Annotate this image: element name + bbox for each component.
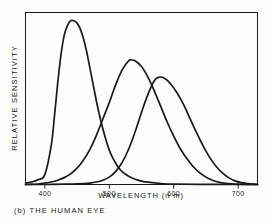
chart-background xyxy=(0,0,273,200)
x-axis-tick-label: 700 xyxy=(232,190,245,197)
x-axis-title: WAVELENGTH (n m) xyxy=(98,191,184,200)
figure-human-eye-sensitivity: 400500600700 WAVELENGTH (n m) RELATIVE S… xyxy=(0,0,273,224)
figure-caption: (b) THE HUMAN EYE xyxy=(14,206,106,215)
sensitivity-chart-svg: 400500600700 WAVELENGTH (n m) RELATIVE S… xyxy=(0,0,273,200)
y-axis-title: RELATIVE SENSITIVITY xyxy=(10,45,19,151)
x-axis-tick-label: 400 xyxy=(38,190,51,197)
chart-plot-area: 400500600700 WAVELENGTH (n m) RELATIVE S… xyxy=(0,0,273,200)
